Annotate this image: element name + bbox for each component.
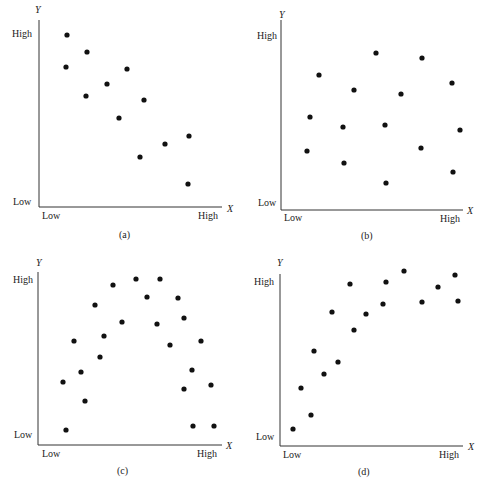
data-point [307,114,312,119]
data-point [124,66,129,71]
data-point [157,276,162,281]
data-point [398,91,403,96]
panel-caption: (b) [361,230,373,241]
data-point [82,398,87,403]
y-axis-label: Y [36,257,42,268]
data-point [137,154,142,159]
data-point [449,80,454,85]
data-point [186,133,191,138]
data-point [351,87,356,92]
data-point [351,327,356,332]
panel-caption: (d) [358,466,370,477]
data-point [383,279,388,284]
x-axis-label: X [227,203,233,214]
data-point [290,426,295,431]
x-tick-low: Low [42,448,60,459]
data-point [110,282,115,287]
data-point [116,115,121,120]
x-axis-label: X [468,441,474,452]
data-point [340,124,345,129]
data-point [175,295,180,300]
data-point [335,359,340,364]
data-point [101,333,106,338]
scatter-plot-b [245,0,489,244]
data-point [419,299,424,304]
data-point [419,55,424,60]
y-tick-low: Low [256,431,274,442]
data-point [211,423,216,428]
data-point [363,311,368,316]
data-point [144,294,149,299]
y-tick-high: High [12,28,32,39]
data-point [167,342,172,347]
scatter-panel-a: Y High Low Low High X (a) [0,0,244,244]
data-point [329,309,334,314]
data-point [64,32,69,37]
y-tick-low: Low [14,429,32,440]
data-point [457,127,462,132]
data-point [383,180,388,185]
data-point [450,169,455,174]
scatter-panel-d: Y High Low Low High X (d) [245,244,489,488]
data-point [373,50,378,55]
y-axis-label: Y [279,9,285,20]
data-point [83,93,88,98]
x-axis-label: X [226,440,232,451]
data-point [133,276,138,281]
data-point [154,321,159,326]
data-point [198,338,203,343]
data-point [78,369,83,374]
x-tick-high: High [197,448,217,459]
y-tick-low: Low [258,197,276,208]
x-tick-low: Low [42,210,60,221]
data-point [181,315,186,320]
data-point [298,385,303,390]
data-point [92,302,97,307]
panel-caption: (a) [119,229,130,240]
data-point [162,141,167,146]
x-tick-high: High [198,210,218,221]
data-point [452,272,457,277]
data-point [347,281,352,286]
scatter-panel-c: Y High Low Low High X (c) [0,244,244,488]
data-point [341,160,346,165]
data-point [382,122,387,127]
scatter-panel-b: Y High Low Low High X (b) [245,0,489,244]
data-point [380,301,385,306]
data-point [190,423,195,428]
y-tick-high: High [254,276,274,287]
x-tick-high: High [440,213,460,224]
data-point [60,379,65,384]
x-tick-low: Low [283,449,301,460]
y-tick-low: Low [13,196,31,207]
x-tick-low: Low [284,212,302,223]
y-tick-high: High [13,274,33,285]
data-point [181,386,186,391]
data-point [311,348,316,353]
data-point [63,64,68,69]
panel-caption: (c) [117,465,128,476]
data-point [119,319,124,324]
data-point [401,268,406,273]
data-point [97,354,102,359]
scatter-plot-a [0,0,244,244]
y-axis-label: Y [35,4,41,15]
data-point [418,145,423,150]
data-point [455,298,460,303]
data-point [316,72,321,77]
data-point [435,284,440,289]
x-axis-label: X [467,205,473,216]
data-point [63,427,68,432]
data-point [304,148,309,153]
y-tick-high: High [257,30,277,41]
data-point [189,367,194,372]
data-point [71,338,76,343]
data-point [104,81,109,86]
y-axis-label: Y [277,257,283,268]
data-point [185,181,190,186]
data-point [84,49,89,54]
data-point [208,382,213,387]
x-tick-high: High [439,449,459,460]
data-point [141,97,146,102]
data-point [321,371,326,376]
